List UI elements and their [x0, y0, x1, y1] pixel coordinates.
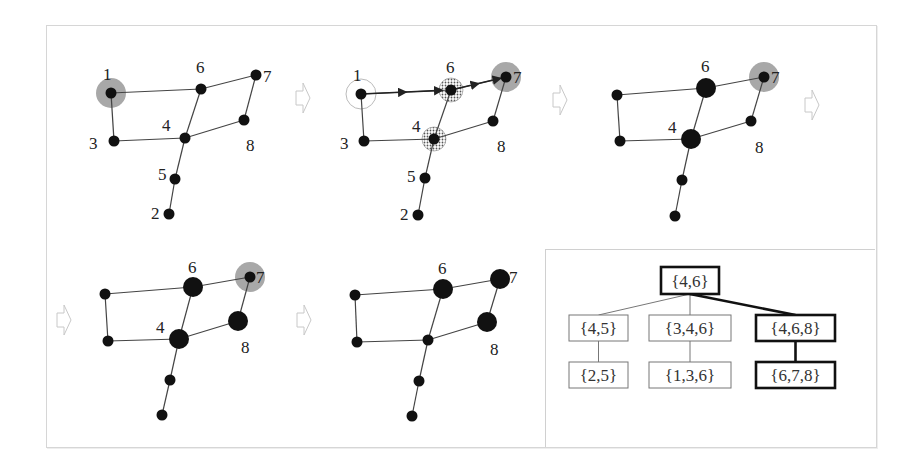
- clique-label: {3,4,6}: [665, 319, 715, 338]
- graph-node-7: [490, 269, 510, 289]
- graph-node-3: [359, 136, 370, 147]
- graph-panel-2: 16734852: [340, 58, 522, 224]
- graph-node-8: [228, 311, 248, 331]
- graph-node-1: [100, 289, 111, 300]
- clique-label: {2,5}: [580, 366, 618, 385]
- graph-edge: [675, 180, 682, 216]
- node-label: 7: [513, 68, 522, 87]
- node-label: 8: [241, 338, 250, 357]
- graph-node-6: [696, 78, 716, 98]
- junction-tree: {4,6}{4,5}{3,4,6}{4,6,8}{2,5}{1,3,6}{6,7…: [569, 267, 835, 388]
- graph-edge: [114, 138, 185, 141]
- node-label: 8: [490, 340, 499, 359]
- graph-panel-3: 6748: [612, 57, 781, 222]
- node-label: 6: [701, 57, 710, 76]
- node-label: 8: [246, 136, 255, 155]
- graph-node-7: [245, 272, 256, 283]
- graph-node-1: [350, 290, 361, 301]
- graph-edge: [620, 139, 691, 141]
- step-arrow-icon: [57, 305, 71, 335]
- node-label: 3: [89, 134, 98, 153]
- node-label: 5: [407, 167, 416, 186]
- graph-node-1: [612, 90, 623, 101]
- graph-edge: [361, 94, 364, 141]
- step-arrow-icon: [297, 305, 311, 335]
- graph-node-5: [677, 175, 688, 186]
- graph-edge: [434, 121, 493, 139]
- graph-node-4: [681, 129, 701, 149]
- node-label: 8: [497, 137, 506, 156]
- graph-edge: [617, 88, 706, 95]
- graph-node-5: [165, 375, 176, 386]
- node-label: 4: [668, 118, 677, 137]
- graph-node-1: [356, 89, 367, 100]
- node-label: 4: [156, 318, 165, 337]
- graph-edge: [201, 75, 256, 89]
- graph-edge: [419, 340, 428, 381]
- node-label: 6: [188, 258, 197, 277]
- graph-node-5: [170, 174, 181, 185]
- node-label: 7: [256, 268, 265, 287]
- graph-edge: [175, 138, 185, 179]
- graph-node-3: [615, 136, 626, 147]
- node-label: 2: [400, 205, 409, 224]
- graph-node-4: [180, 133, 191, 144]
- graph-node-2: [413, 210, 424, 221]
- tree-edge: [599, 294, 691, 315]
- graph-panel-4: 6748: [100, 258, 266, 421]
- clique-label: {1,3,6}: [665, 366, 715, 385]
- step-arrow-icon: [296, 83, 310, 113]
- graph-node-3: [352, 337, 363, 348]
- graph-panel-1: 16734852: [89, 58, 272, 223]
- graph-edge: [105, 287, 193, 294]
- graph-node-5: [420, 173, 431, 184]
- step-arrow-icon: [553, 85, 567, 115]
- graph-node-6: [183, 277, 203, 297]
- graph-node-2: [407, 411, 418, 422]
- graph-node-8: [488, 116, 499, 127]
- node-label: 1: [353, 66, 362, 85]
- flow-arrow: [361, 92, 406, 94]
- node-label: 8: [755, 138, 764, 157]
- node-label: 2: [151, 204, 160, 223]
- graph-node-7: [759, 72, 770, 83]
- node-label: 7: [263, 67, 272, 86]
- graph-node-2: [157, 410, 168, 421]
- graph-node-4: [429, 134, 440, 145]
- node-label: 7: [771, 68, 780, 87]
- node-label: 6: [438, 259, 447, 278]
- graph-edge: [355, 295, 357, 342]
- node-label: 3: [340, 134, 349, 153]
- graph-node-8: [746, 116, 757, 127]
- graph-node-7: [251, 70, 262, 81]
- node-label: 6: [196, 58, 205, 77]
- graph-panel-5: 678: [350, 259, 519, 422]
- graph-node-2: [670, 211, 681, 222]
- graph-node-6: [196, 84, 207, 95]
- tree-edge: [690, 294, 796, 315]
- junction-tree-figure: 167348521673485267486748678{4,6}{4,5}{3,…: [0, 0, 917, 474]
- graph-edge: [244, 75, 256, 120]
- graph-edge: [185, 89, 201, 138]
- clique-label: {4,6}: [671, 272, 709, 291]
- graph-edge: [185, 120, 244, 138]
- graph-edge: [355, 289, 443, 295]
- flow-arrow: [406, 90, 442, 92]
- node-label: 5: [158, 165, 167, 184]
- graph-edge: [105, 294, 108, 341]
- graph-node-3: [109, 136, 120, 147]
- node-label: 4: [162, 116, 171, 135]
- step-arrow-icon: [805, 90, 819, 120]
- graph-node-6: [433, 279, 453, 299]
- graph-node-8: [239, 115, 250, 126]
- clique-label: {4,5}: [580, 319, 618, 338]
- graph-node-8: [477, 312, 497, 332]
- graph-node-2: [164, 209, 175, 220]
- graph-node-7: [501, 72, 512, 83]
- graph-edge: [108, 339, 179, 341]
- graph-node-6: [446, 85, 457, 96]
- graph-node-5: [414, 376, 425, 387]
- clique-label: {6,7,8}: [770, 366, 820, 385]
- graph-node-4: [169, 329, 189, 349]
- node-label: 6: [446, 58, 455, 77]
